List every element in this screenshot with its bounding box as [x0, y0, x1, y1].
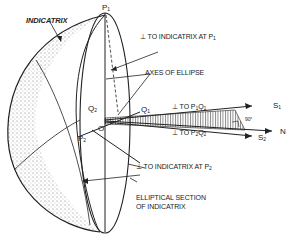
- elliptical-section-label: ELLIPTICAL SECTION OF INDICATRIX: [136, 193, 206, 211]
- elliptical-section-line1: ELLIPTICAL SECTION: [136, 193, 206, 202]
- normal-p1-label: ⊥ TO INDICATRIX AT P1: [140, 33, 216, 41]
- point-p1: P1: [102, 3, 110, 12]
- point-n: N: [280, 127, 286, 136]
- point-o: O: [98, 124, 104, 133]
- point-s1: S1: [273, 101, 281, 110]
- indicatrix-label: INDICATRIX: [26, 16, 67, 25]
- axes-of-ellipse-label: AXES OF ELLIPSE: [145, 69, 204, 76]
- elliptical-section-line2: OF INDICATRIX: [136, 202, 206, 211]
- point-s2: S2: [258, 133, 266, 142]
- point-q1: Q1: [141, 105, 150, 114]
- normal-p2-label: ⊥ TO INDICATRIX AT P2: [136, 163, 212, 171]
- indicatrix-shell: [8, 15, 105, 232]
- perp-p1q1-label: ⊥ TO P1Q1: [172, 103, 206, 111]
- perp-p2q2-label: ⊥ TO P2Q2: [172, 129, 206, 137]
- right-angle-label: 90°: [245, 116, 252, 122]
- point-p2: P2: [78, 134, 86, 143]
- point-q2: Q2: [88, 104, 97, 113]
